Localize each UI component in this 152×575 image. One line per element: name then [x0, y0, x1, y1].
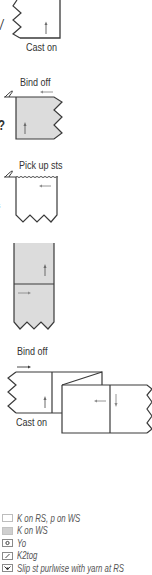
slip-stitch-icon	[2, 564, 13, 572]
down-arrow-icon	[115, 394, 118, 407]
white-square-icon	[2, 514, 13, 522]
pick-up-shape	[0, 155, 152, 240]
cast-on-label: Cast on	[26, 41, 57, 53]
up-arrow-icon	[44, 396, 47, 408]
right-arrow-icon	[17, 366, 31, 369]
legend-label: K on RS, p on WS	[17, 513, 80, 524]
bind-off-diagram: Bind off	[0, 70, 152, 150]
legend-item-knit-rs: K on RS, p on WS	[2, 512, 152, 525]
two-part-shape	[0, 243, 152, 333]
k2tog-slash-icon	[2, 552, 13, 560]
up-arrow-icon	[45, 22, 48, 35]
legend-item-knit-ws: K on WS	[2, 525, 152, 538]
legend-label: Yo	[17, 538, 26, 549]
pick-up-diagram: Pick up sts	[0, 155, 152, 240]
gray-square-icon	[2, 527, 13, 535]
cast-on-shape	[0, 0, 152, 65]
yarn-tail-icon	[4, 91, 16, 97]
cast-on-diagram: Cast on	[0, 0, 152, 65]
legend-label: K on WS	[17, 525, 48, 536]
left-arrow-icon	[94, 400, 106, 403]
fold-shape	[0, 345, 152, 445]
stitch-legend: K on RS, p on WS K on WS Yo K2tog Slip s…	[2, 512, 152, 575]
legend-label: K2tog	[17, 550, 37, 561]
left-arrow-icon	[39, 185, 51, 188]
fold-diagram: Bind off Cast on	[0, 345, 152, 445]
left-arrow-icon	[40, 91, 53, 94]
legend-item-yo: Yo	[2, 537, 152, 550]
two-part-diagram	[0, 243, 152, 333]
bind-off-shape	[0, 70, 152, 150]
yarn-over-circle-icon	[2, 539, 13, 547]
yarn-tail-icon	[4, 171, 16, 177]
legend-item-slip-stitch: Slip st purlwise with yarn at RS	[2, 562, 152, 575]
legend-item-k2tog: K2tog	[2, 550, 152, 563]
legend-label: Slip st purlwise with yarn at RS	[17, 563, 124, 574]
